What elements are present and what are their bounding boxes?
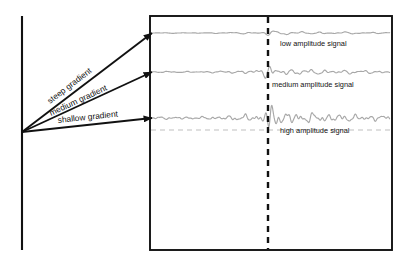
signal-label-low: low amplitude signal bbox=[280, 39, 347, 48]
diagram-canvas: steep gradientmedium gradientshallow gra… bbox=[0, 0, 404, 265]
figure-root: steep gradientmedium gradientshallow gra… bbox=[0, 0, 404, 265]
signal-label-medium: medium amplitude signal bbox=[272, 80, 354, 89]
signal-label-high: high amplitude signal bbox=[280, 126, 350, 135]
gradient-arrow-medium bbox=[22, 72, 152, 132]
signal-panel-border bbox=[150, 16, 392, 250]
